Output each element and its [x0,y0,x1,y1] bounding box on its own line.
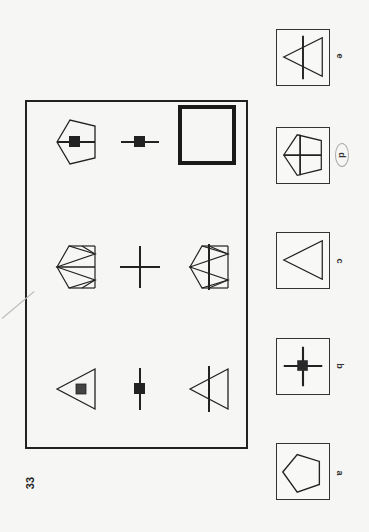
option-c[interactable] [276,232,330,289]
puzzle-page: e d c b a 33 [0,0,369,532]
cell-triangle-vertical-line [185,364,235,414]
pencil-circle-mark [335,143,349,167]
option-b-label: b [335,360,345,372]
cell-thick-square [177,104,237,166]
option-e-label: e [335,50,345,62]
cell-pentagon-fan-bowtie [52,242,102,292]
cell-cross [115,242,165,292]
cell-triangle-grey-square [52,364,102,414]
option-a[interactable] [276,443,330,500]
option-c-label: c [335,255,345,267]
cell-pentagon-square [52,117,102,167]
cell-pentagon-fan-vertical [185,242,235,292]
option-d[interactable] [276,127,330,184]
question-number: 33 [24,477,36,489]
option-e[interactable] [276,29,330,86]
option-b[interactable] [276,338,330,395]
cell-line-square [115,117,165,167]
puzzle-matrix-frame [25,100,248,449]
option-a-label: a [335,467,345,479]
cell-vertical-line-square [115,364,165,414]
